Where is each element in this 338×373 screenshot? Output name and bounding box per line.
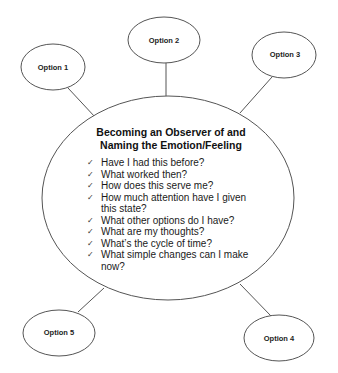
connector-option-4	[240, 284, 271, 316]
checkmark-icon: ✓	[87, 169, 94, 181]
checkmark-icon: ✓	[87, 180, 94, 192]
list-item-text: Have I had this before?	[101, 157, 204, 168]
option-2-label: Option 2	[149, 36, 179, 45]
list-item-text: How does this serve me?	[101, 180, 213, 191]
list-item: ✓ What worked then?	[84, 169, 256, 181]
checkmark-icon: ✓	[87, 157, 94, 169]
list-item-text: What worked then?	[101, 169, 187, 180]
checkmark-icon: ✓	[87, 238, 94, 250]
question-list: ✓ Have I had this before? ✓ What worked …	[84, 157, 256, 272]
list-item-text: What other options do I have?	[101, 215, 234, 226]
list-item: ✓ What are my thoughts?	[84, 226, 256, 238]
list-item: ✓ What other options do I have?	[84, 215, 256, 227]
connector-option-3	[240, 77, 272, 113]
connector-option-5	[78, 288, 104, 312]
list-item: ✓ Have I had this before?	[84, 157, 256, 169]
list-item: ✓ How does this serve me?	[84, 180, 256, 192]
list-item: ✓ What simple changes can I make now?	[84, 249, 256, 272]
option-3-label: Option 3	[270, 50, 300, 59]
list-item: ✓ What’s the cycle of time?	[84, 238, 256, 250]
list-item-text: What simple changes can I make	[101, 249, 248, 260]
list-item-text: How much attention have I given	[101, 192, 246, 203]
checkmark-icon: ✓	[87, 192, 94, 204]
option-1-label: Option 1	[38, 63, 68, 72]
list-item-text: What’s the cycle of time?	[101, 238, 212, 249]
list-item-text: What are my thoughts?	[101, 226, 204, 237]
checkmark-icon: ✓	[87, 249, 94, 261]
connector-option-1	[68, 88, 95, 117]
option-4-label: Option 4	[264, 334, 294, 343]
central-title: Becoming an Observer of and Naming the E…	[86, 126, 256, 152]
option-5-label: Option 5	[44, 328, 74, 337]
checkmark-icon: ✓	[87, 215, 94, 227]
central-title-line-2: Naming the Emotion/Feeling	[86, 139, 256, 152]
list-item-text-continued: this state?	[101, 203, 147, 214]
central-title-line-1: Becoming an Observer of and	[86, 126, 256, 139]
checkmark-icon: ✓	[87, 226, 94, 238]
list-item: ✓ How much attention have I given this s…	[84, 192, 256, 215]
list-item-text-continued: now?	[101, 261, 125, 272]
central-content: Becoming an Observer of and Naming the E…	[84, 126, 256, 272]
